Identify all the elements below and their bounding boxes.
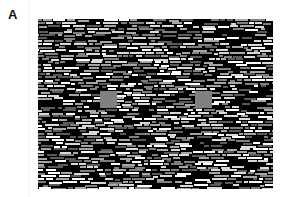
panel-divider [29,0,30,197]
texture-canvas [38,19,273,189]
right-gray-square [195,91,212,108]
panel-label: A [8,8,17,21]
texture-stimulus [38,19,273,189]
left-gray-square [100,91,117,108]
